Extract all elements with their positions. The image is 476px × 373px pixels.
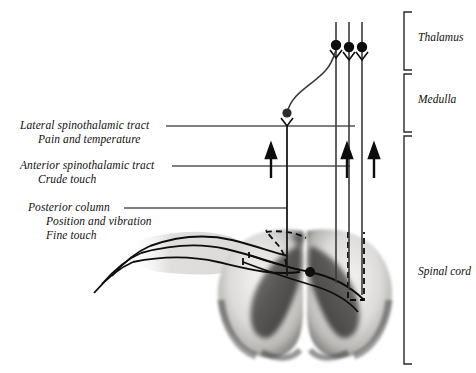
dorsal-root-fibers [94,237,300,293]
cord-white-matter [218,229,392,358]
dorsal-horn-synapse-dot [305,267,315,277]
y-fork-posterior [356,52,368,60]
arrow-right [369,144,379,178]
region-label-thalamus: Thalamus [418,31,463,43]
arrow-middle [342,144,352,178]
leader-lines [124,126,355,208]
label-anterior-spinothalamic-tract: Anterior spinothalamic tract [20,159,154,171]
synapse-dot-lateral [331,40,341,50]
y-fork-anterior [343,52,355,60]
label-lateral-spinothalamic-tract: Lateral spinothalamic tract [20,119,149,131]
direction-arrows [266,144,379,178]
synapse-dot-anterior [344,42,354,52]
label-anterior-spinothalamic-modality: Crude touch [38,173,96,185]
label-posterior-column-modality-2: Fine touch [46,229,97,241]
arrow-left [266,144,276,178]
decussating-fibers [243,255,364,312]
label-posterior-column: Posterior column [28,201,110,213]
sensory-pathway-diagram: Lateral spinothalamic tract Pain and tem… [0,0,476,373]
pathway-overlay [0,0,476,373]
cord-edge-shading [221,300,389,358]
decussation-curve [287,50,336,113]
y-fork-medulla [281,118,293,126]
posterior-column-dashed-path [266,230,287,275]
synapse-dot-posterior [357,42,367,52]
synapse-ticks [243,252,249,265]
label-lateral-spinothalamic-modality: Pain and temperature [38,133,141,145]
ascending-tract-lines [336,22,362,295]
bracket-spinal-cord [404,136,412,364]
cord-gray-matter [250,234,359,338]
y-fork-lateral [330,50,342,58]
region-brackets [404,12,412,364]
medulla-nucleus-dot [282,108,291,117]
thalamic-synapses [330,40,368,60]
region-label-spinal-cord: Spinal cord [418,265,471,277]
dorsal-column-region-marker [348,232,364,300]
bracket-medulla [404,74,412,132]
bracket-thalamus [404,12,412,70]
region-label-medulla: Medulla [418,93,456,105]
spinal-cord-illustration [0,0,476,373]
posterior-column-dashed-arc [266,231,306,238]
label-posterior-column-modality-1: Position and vibration [46,215,152,227]
dorsal-root-sheath [128,232,248,275]
